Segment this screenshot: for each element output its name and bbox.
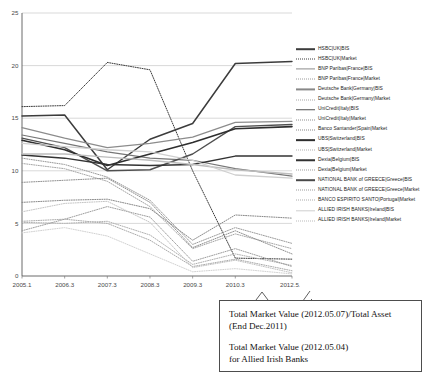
legend-item[interactable]: Dexia|Belgium|BIS [296,155,427,165]
legend-item[interactable]: NATIONAL BANK of GREECE|Greece|Market [296,185,427,195]
y-axis-tick-label: 20 [12,62,19,69]
chart-page: 05101520252005.12006.32007.32008.32009.3… [0,0,427,380]
legend-line-swatch [296,74,315,84]
legend-line-swatch [296,185,315,195]
legend-line-swatch [296,135,315,145]
legend-line-swatch [296,125,315,135]
legend-item[interactable]: UBS|Switzerland|Market [296,145,427,155]
legend-item-label: Dexia|Belgium|BIS [318,158,359,163]
annotation-line-4: for Allied Irish Banks [229,353,412,365]
legend-item-label: Dexia|Belgium|Market [318,168,367,173]
legend-line-swatch [296,216,315,226]
legend-line-swatch [296,95,315,105]
legend-item-label: BNP Paribas|France|BIS [318,67,373,72]
legend-item[interactable]: BNP Paribas|France|BIS [296,64,427,74]
x-axis-tick-label: 2009.3 [183,281,202,288]
annotation-line-1: Total Market Value (2012.05.07)/Total As… [229,308,412,320]
legend-line-swatch [296,64,315,74]
legend-line-swatch [296,165,315,175]
annotation-line-2: (End Dec.2011) [229,320,412,332]
legend-item-label: ALLIED IRISH BANKS|Ireland|BIS [318,208,394,213]
x-axis-tick-label: 2005.1 [13,281,32,288]
legend-item[interactable]: BANCO ESPIRITO SANTO|Portugal|Market [296,195,427,205]
legend-item-label: HSBC|UK|BIS [318,47,349,52]
y-axis-tick-label: 0 [15,272,19,279]
legend-item[interactable]: ALLIED IRISH BANKS|Ireland|BIS [296,206,427,216]
annotation-spacer [229,332,412,341]
chart-canvas: 05101520252005.12006.32007.32008.32009.3… [0,0,300,300]
legend-item[interactable]: BNP Paribas|France|Market [296,74,427,84]
series-line [22,228,292,274]
legend-item-label: ALLIED IRISH BANKS|Ireland|Market [318,218,401,223]
legend-item[interactable]: Deutsche Bank|Germany|Market [296,94,427,104]
legend-item-label: UBS|Switzerland|BIS [318,137,365,142]
legend-item[interactable]: UniCredit|Italy|Market [296,115,427,125]
annotation-callout: Total Market Value (2012.05.07)/Total As… [219,300,422,372]
x-axis-tick-label: 2012.5.7 [280,281,300,288]
legend-line-swatch [296,195,315,205]
legend-item-label: UniCredit|Italy|BIS [318,107,359,112]
legend-line-swatch [296,115,315,125]
legend-item-label: UniCredit|Italy|Market [318,117,366,122]
y-axis-tick-label: 5 [15,220,19,227]
legend-line-swatch [296,84,315,94]
y-axis-tick-label: 25 [12,9,19,16]
legend-line-swatch [296,44,315,54]
series-line [22,219,292,271]
legend-item[interactable]: Dexia|Belgium|Market [296,165,427,175]
series-line [22,121,292,147]
x-axis-tick-label: 2006.3 [55,281,74,288]
legend-item-label: UBS|Switzerland|Market [318,148,372,153]
legend-item-label: NATIONAL BANK of GREECE|Greece|BIS [318,178,412,183]
x-axis-tick-label: 2007.3 [98,281,117,288]
legend-item[interactable]: Deutsche Bank|Germany|BIS [296,84,427,94]
legend-line-swatch [296,145,315,155]
legend-item[interactable]: NATIONAL BANK of GREECE|Greece|BIS [296,175,427,185]
legend-line-swatch [296,175,315,185]
legend-item-label: BNP Paribas|France|Market [318,77,380,82]
legend-item-label: NATIONAL BANK of GREECE|Greece|Market [318,188,419,193]
legend-item[interactable]: HSBC|UK|BIS [296,44,427,54]
legend-item-label: HSBC|UK|Market [318,57,357,62]
legend-line-swatch [296,206,315,216]
legend-item-label: Banco Santander|Spain|Market [318,127,387,132]
legend-item[interactable]: ALLIED IRISH BANKS|Ireland|Market [296,216,427,226]
legend-line-swatch [296,105,315,115]
annotation-line-3: Total Market Value (2012.05.04) [229,341,412,353]
y-axis-tick-label: 10 [12,167,19,174]
legend-item[interactable]: UniCredit|Italy|BIS [296,105,427,115]
x-axis-tick-label: 2010.3 [226,281,245,288]
legend-item[interactable]: UBS|Switzerland|BIS [296,135,427,145]
legend-line-swatch [296,54,315,64]
legend-item-label: Deutsche Bank|Germany|Market [318,97,390,102]
legend-line-swatch [296,155,315,165]
legend-item[interactable]: Banco Santander|Spain|Market [296,125,427,135]
chart-legend: HSBC|UK|BISHSBC|UK|MarketBNP Paribas|Fra… [296,44,427,226]
legend-item-label: Deutsche Bank|Germany|BIS [318,87,383,92]
legend-item-label: BANCO ESPIRITO SANTO|Portugal|Market [318,198,415,203]
y-axis-tick-label: 15 [12,114,19,121]
x-axis-tick-label: 2008.3 [141,281,160,288]
legend-item[interactable]: HSBC|UK|Market [296,54,427,64]
line-chart: 05101520252005.12006.32007.32008.32009.3… [0,0,300,300]
